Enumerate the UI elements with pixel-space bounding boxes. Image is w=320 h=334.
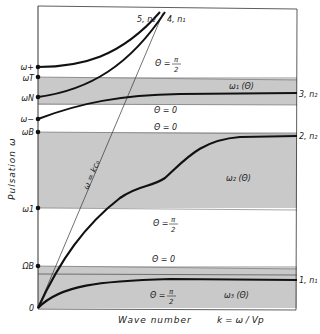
branch-2-label: 2, n₂ [299,132,318,141]
svg-text:π: π [174,56,179,64]
right-border [296,9,297,310]
tick-label-omega-n: ωN [21,94,34,103]
y-axis-label: Pulsation ω [7,138,17,200]
band2-bottom [38,208,297,210]
theta-zero-mid-a: Θ = 0 [154,106,177,115]
branch-4-label: 4, n₁ [167,15,185,24]
omega2-theta-label: ω₂ (Θ) [226,174,251,183]
branch-3-label: 3, n₂ [299,90,318,99]
svg-text:Θ =: Θ = [153,219,169,228]
band-omega2 [38,132,297,208]
tick-label-omega-plus: ω+ [21,63,34,72]
omega1-theta-label: ω₁ (Θ) [229,82,254,91]
theta-pi2-top: Θ = π 2 [155,56,181,74]
top-border [38,6,297,9]
svg-text:2: 2 [171,226,176,234]
svg-text:π: π [171,216,176,224]
tick-label-omega-minus: ω− [21,115,34,124]
theta-pi2-lower: Θ = π 2 [153,216,178,234]
tick-label-omega-b: ωB [22,128,34,137]
theta-zero-mid-b: Θ = 0 [154,123,177,132]
tick-label-omega-t: ωT [22,74,35,83]
tick-dot-omega-minus [36,117,41,122]
svg-text:Θ =: Θ = [155,59,171,68]
branch-5-label: 5, n₂ [137,15,156,24]
x-axis-formula: k = ω / Vp [217,315,264,325]
tick-label-capital-omega-b: ΩB [21,262,34,271]
tick-label-zero: 0 [29,304,34,313]
tick-dot-capital-omega-b [36,264,41,269]
omega3-theta-label: ω₃ (Θ) [224,291,249,300]
tick-dot-omega-b [36,130,41,135]
branch-1-label: 1, n₁ [299,276,317,285]
tick-label-omega-1: ω1 [22,205,34,214]
bottom-border [38,309,296,310]
tick-dot-omega-n [36,95,41,100]
band-omega1 [38,77,297,105]
tick-dot-omega-plus [36,65,41,70]
svg-text:2: 2 [169,298,174,306]
svg-text:Θ =: Θ = [150,291,166,300]
svg-text:2: 2 [174,66,179,74]
tick-dot-omega-t [36,75,41,80]
x-axis-label: Wave number [118,315,192,325]
dispersion-diagram: ω+ ωT ωN ω− ωB ω1 ΩB 0 Pulsation ω Wave … [0,0,320,334]
tick-dot-omega-1 [36,206,41,211]
theta-zero-lower: Θ = 0 [152,255,175,264]
